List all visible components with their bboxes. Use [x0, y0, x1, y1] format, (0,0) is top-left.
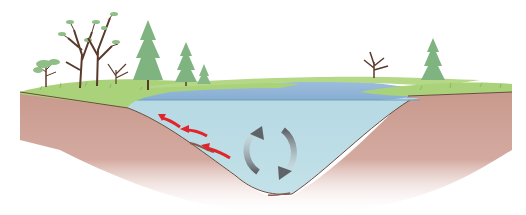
conifer-tree-icon [421, 38, 445, 80]
conifer-tree-icon [175, 42, 197, 86]
conifer-tree-icon [133, 20, 163, 90]
trees-right [364, 38, 445, 80]
lake-cross-section-diagram [0, 0, 526, 215]
bare-tree-icon [58, 20, 100, 88]
conifer-tree-icon [197, 64, 211, 84]
trees-left [33, 12, 211, 90]
bushy-tree-icon [33, 59, 60, 87]
bare-tree-icon [364, 52, 388, 78]
